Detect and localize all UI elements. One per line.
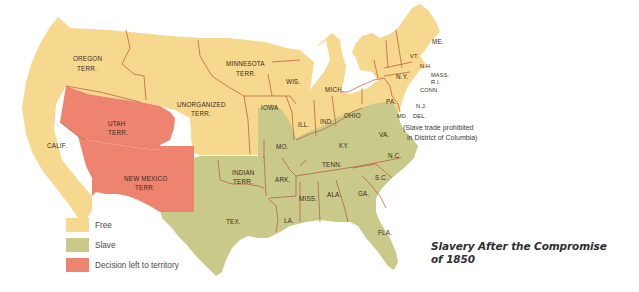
label-miss: MISS. <box>299 195 317 202</box>
legend: Free Slave Decision left to territory <box>66 215 179 275</box>
svg-text:TERR.: TERR. <box>135 184 155 191</box>
label-conn: CONN. <box>420 87 439 93</box>
svg-text:TERR.: TERR. <box>236 70 256 77</box>
label-tenn: TENN. <box>322 161 342 168</box>
label-ind: IND. <box>320 118 333 125</box>
dc-annotation: (Slave trade prohibited in District of C… <box>403 124 477 142</box>
label-indian: INDIAN <box>232 169 255 176</box>
svg-text:TERR.: TERR. <box>77 65 97 72</box>
label-utah: UTAH <box>108 120 126 127</box>
label-mich: MICH. <box>325 86 344 93</box>
label-wis: WIS. <box>286 78 300 85</box>
svg-text:in District of Columbia): in District of Columbia) <box>407 134 477 142</box>
label-ala: ALA. <box>327 191 342 198</box>
label-mo: MO. <box>276 143 289 150</box>
label-ohio: OHIO <box>344 112 361 119</box>
legend-item-free: Free <box>66 215 179 235</box>
svg-text:TERR.: TERR. <box>191 110 211 117</box>
label-calif: CALIF. <box>47 142 67 149</box>
swatch-free <box>66 218 89 232</box>
label-nh: N.H. <box>420 63 432 69</box>
label-ark: ARK. <box>275 176 291 183</box>
svg-text:TERR.: TERR. <box>108 129 128 136</box>
label-pa: PA. <box>386 98 396 105</box>
label-ny: N.Y. <box>396 73 408 80</box>
label-ky: KY. <box>339 142 349 149</box>
label-vt: VT. <box>410 53 419 59</box>
label-unorganized: UNORGANIZED <box>177 101 226 108</box>
label-sc: S.C. <box>375 174 388 181</box>
legend-item-slave: Slave <box>66 235 179 255</box>
label-minnesota: MINNESOTA <box>226 60 265 67</box>
label-nc: N.C. <box>388 152 401 159</box>
label-oregon: OREGON <box>73 55 102 62</box>
label-tex: TEX. <box>226 218 241 225</box>
label-la: LA. <box>284 217 294 224</box>
label-ri: R.I. <box>431 79 441 85</box>
label-me: ME. <box>432 38 444 45</box>
swatch-slave <box>66 238 89 252</box>
label-md: MD. <box>397 113 408 119</box>
label-mass: MASS. <box>431 72 450 78</box>
svg-text:(Slave trade prohibited: (Slave trade prohibited <box>403 124 474 132</box>
map-title: Slavery After the Compromise of 1850 <box>431 240 607 265</box>
label-fla: FLA. <box>378 229 392 236</box>
legend-item-territory-decision: Decision left to territory <box>66 255 179 275</box>
swatch-territory-decision <box>66 258 89 272</box>
label-ill: ILL. <box>298 121 309 128</box>
label-iowa: IOWA <box>261 104 279 111</box>
label-nj: N.J. <box>416 103 427 109</box>
label-new-mexico: NEW MEXICO <box>124 175 167 182</box>
label-ga: GA. <box>358 190 369 197</box>
label-del: DEL. <box>413 113 426 119</box>
svg-text:TERR.: TERR. <box>233 178 253 185</box>
label-va: VA. <box>379 131 389 138</box>
